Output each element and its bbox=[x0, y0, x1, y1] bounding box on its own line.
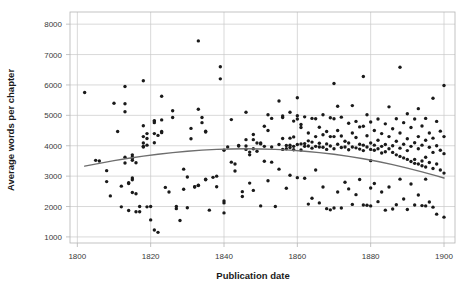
data-point bbox=[131, 178, 134, 181]
data-point bbox=[131, 159, 134, 162]
data-point bbox=[369, 204, 372, 207]
y-tick-marks bbox=[66, 24, 70, 237]
data-point bbox=[424, 204, 427, 207]
data-point bbox=[171, 116, 174, 119]
data-point bbox=[138, 210, 141, 213]
data-point bbox=[241, 195, 244, 198]
data-point bbox=[332, 117, 335, 120]
data-point bbox=[292, 145, 295, 148]
data-point bbox=[153, 141, 156, 144]
data-point bbox=[160, 131, 163, 134]
data-point bbox=[134, 192, 137, 195]
y-axis-title: Average words per chapter bbox=[5, 69, 16, 191]
data-point bbox=[299, 123, 302, 126]
data-point bbox=[336, 143, 339, 146]
data-point bbox=[134, 161, 137, 164]
data-point bbox=[329, 116, 332, 119]
data-point bbox=[149, 205, 152, 208]
data-point bbox=[296, 143, 299, 146]
data-point bbox=[431, 151, 434, 154]
data-point bbox=[248, 153, 251, 156]
data-point bbox=[186, 206, 189, 209]
data-point bbox=[303, 145, 306, 148]
data-point bbox=[343, 139, 346, 142]
y-tick-label: 5000 bbox=[44, 111, 62, 120]
data-point bbox=[329, 208, 332, 211]
data-point bbox=[303, 115, 306, 118]
data-point-series bbox=[83, 39, 446, 234]
data-point bbox=[208, 208, 211, 211]
data-point bbox=[402, 143, 405, 146]
data-point bbox=[252, 133, 255, 136]
data-point bbox=[354, 193, 357, 196]
data-point bbox=[277, 167, 280, 170]
data-point bbox=[83, 91, 86, 94]
data-point bbox=[292, 119, 295, 122]
x-tick-label: 1880 bbox=[362, 252, 380, 261]
data-point bbox=[131, 191, 134, 194]
data-point bbox=[134, 210, 137, 213]
data-point bbox=[219, 65, 222, 68]
data-point bbox=[318, 145, 321, 148]
data-point bbox=[277, 143, 280, 146]
data-point bbox=[325, 142, 328, 145]
data-point bbox=[255, 141, 258, 144]
data-point bbox=[369, 148, 372, 151]
data-point bbox=[431, 136, 434, 139]
data-point bbox=[296, 114, 299, 117]
data-point bbox=[288, 174, 291, 177]
y-tick-label: 2000 bbox=[44, 203, 62, 212]
data-point bbox=[428, 146, 431, 149]
data-point bbox=[402, 121, 405, 124]
data-point bbox=[270, 145, 273, 148]
data-point bbox=[281, 137, 284, 140]
data-point bbox=[365, 113, 368, 116]
data-point bbox=[406, 208, 409, 211]
data-point bbox=[142, 124, 145, 127]
data-point bbox=[233, 169, 236, 172]
plot-frame bbox=[70, 12, 455, 243]
data-point bbox=[431, 97, 434, 100]
data-point bbox=[325, 148, 328, 151]
data-point bbox=[417, 147, 420, 150]
data-point bbox=[387, 185, 390, 188]
data-point bbox=[369, 141, 372, 144]
data-point bbox=[413, 203, 416, 206]
grid-lines bbox=[70, 12, 455, 243]
data-point bbox=[318, 125, 321, 128]
data-point bbox=[182, 167, 185, 170]
data-point bbox=[358, 147, 361, 150]
data-point bbox=[109, 194, 112, 197]
y-tick-label: 7000 bbox=[44, 51, 62, 60]
data-point bbox=[391, 127, 394, 130]
data-point bbox=[420, 124, 423, 127]
x-tick-label: 1860 bbox=[288, 252, 306, 261]
x-tick-label: 1840 bbox=[215, 252, 233, 261]
data-point bbox=[362, 75, 365, 78]
data-point bbox=[391, 151, 394, 154]
data-point bbox=[336, 129, 339, 132]
data-point bbox=[373, 129, 376, 132]
data-point bbox=[259, 204, 262, 207]
data-point bbox=[153, 228, 156, 231]
data-point bbox=[288, 146, 291, 149]
data-point bbox=[120, 205, 123, 208]
data-point bbox=[299, 126, 302, 129]
data-point bbox=[420, 159, 423, 162]
data-point bbox=[351, 203, 354, 206]
data-point bbox=[380, 145, 383, 148]
data-point bbox=[318, 142, 321, 145]
data-point bbox=[259, 142, 262, 145]
data-point bbox=[142, 79, 145, 82]
data-point bbox=[336, 190, 339, 193]
data-point bbox=[384, 208, 387, 211]
data-point bbox=[332, 82, 335, 85]
data-point bbox=[435, 162, 438, 165]
trend-line bbox=[85, 149, 444, 178]
data-point bbox=[321, 185, 324, 188]
data-point bbox=[369, 120, 372, 123]
data-point bbox=[439, 129, 442, 132]
data-point bbox=[395, 117, 398, 120]
data-point bbox=[314, 135, 317, 138]
data-point bbox=[435, 212, 438, 215]
